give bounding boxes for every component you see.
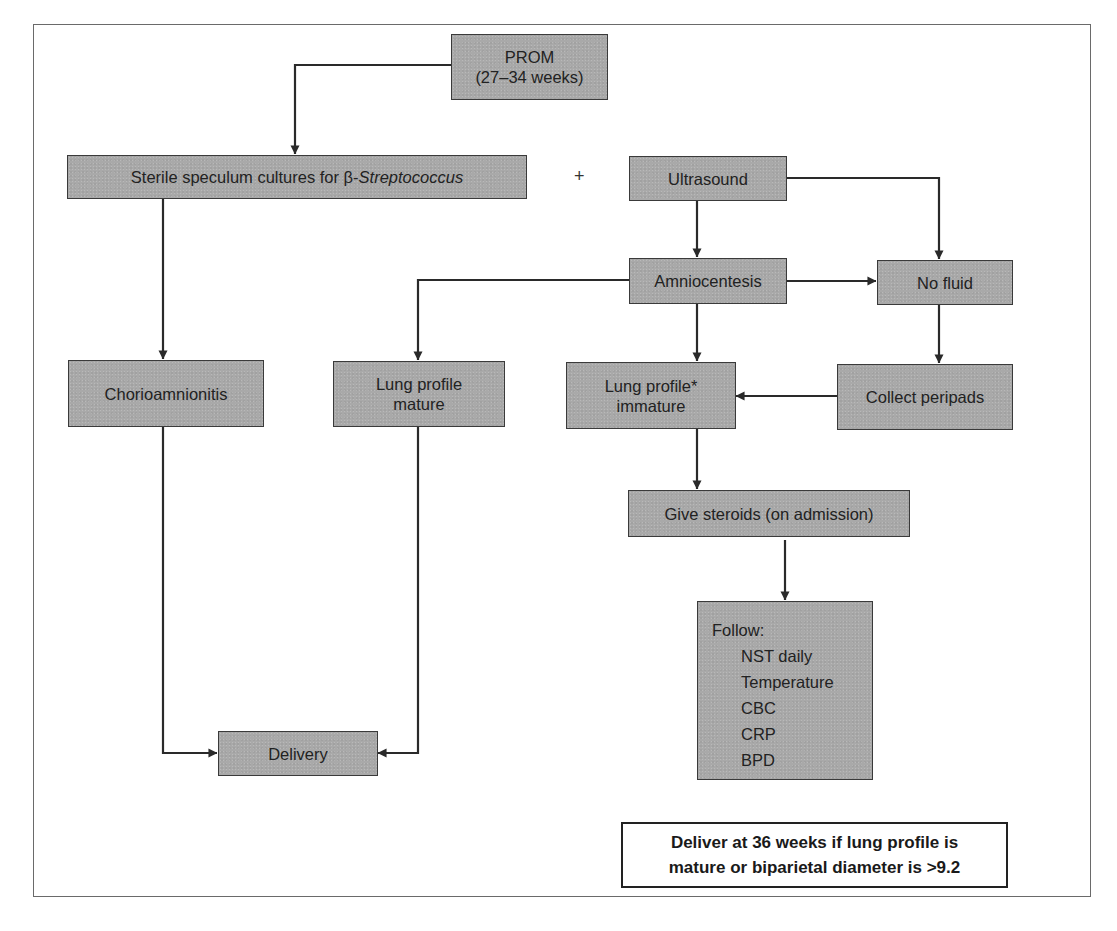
- delivery-label: Delivery: [268, 744, 328, 764]
- follow-item: CBC: [712, 695, 776, 721]
- lung-immature-line2: immature: [617, 396, 686, 416]
- follow-item: NST daily: [712, 643, 812, 669]
- no-fluid-label: No fluid: [917, 273, 973, 293]
- node-delivery: Delivery: [218, 731, 378, 776]
- follow-item: Temperature: [712, 669, 834, 695]
- plus-sign: +: [574, 166, 585, 187]
- node-no-fluid: No fluid: [877, 260, 1013, 305]
- chorioamnionitis-label: Chorioamnionitis: [105, 384, 228, 404]
- node-collect-peripads: Collect peripads: [837, 364, 1013, 430]
- node-follow: Follow: NST daily Temperature CBC CRP BP…: [697, 601, 873, 780]
- prom-subtitle: (27–34 weeks): [475, 67, 583, 87]
- node-lung-profile-mature: Lung profile mature: [333, 361, 505, 427]
- node-lung-profile-immature: Lung profile* immature: [566, 362, 736, 429]
- node-sterile-cultures: Sterile speculum cultures for β-Streptoc…: [67, 155, 527, 199]
- prom-title: PROM: [505, 47, 555, 67]
- cultures-label: Sterile speculum cultures for β-Streptoc…: [131, 167, 463, 187]
- amniocentesis-label: Amniocentesis: [654, 271, 761, 291]
- node-ultrasound: Ultrasound: [629, 156, 787, 201]
- node-chorioamnionitis: Chorioamnionitis: [68, 360, 264, 427]
- delivery-criteria-note: Deliver at 36 weeks if lung profile is m…: [621, 822, 1008, 888]
- node-give-steroids: Give steroids (on admission): [628, 490, 910, 537]
- node-amniocentesis: Amniocentesis: [629, 258, 787, 304]
- node-prom: PROM (27–34 weeks): [451, 34, 608, 100]
- follow-item: CRP: [712, 721, 776, 747]
- collect-peripads-label: Collect peripads: [866, 387, 984, 407]
- ultrasound-label: Ultrasound: [668, 169, 748, 189]
- give-steroids-label: Give steroids (on admission): [664, 504, 873, 524]
- lung-mature-line1: Lung profile: [376, 374, 462, 394]
- lung-immature-line1: Lung profile*: [605, 376, 698, 396]
- note-line1: Deliver at 36 weeks if lung profile is: [671, 830, 958, 855]
- note-line2: mature or biparietal diameter is >9.2: [669, 855, 960, 880]
- follow-heading: Follow:: [712, 617, 764, 643]
- follow-item: BPD: [712, 747, 775, 773]
- lung-mature-line2: mature: [393, 394, 444, 414]
